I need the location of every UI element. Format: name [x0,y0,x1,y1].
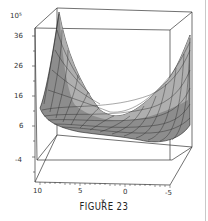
z-axis: 36 26 16 6 -4 10⁵ [10,12,35,172]
surface-plot: 36 26 16 6 -4 10⁵ 10 5 0 -5 x [0,0,208,221]
x-tick-0: 0 [123,188,127,196]
z-multiplier-label: 10⁵ [10,12,22,20]
z-tick-6: 6 [19,122,24,130]
x-tick-10: 10 [33,187,42,195]
z-tick-neg4: -4 [15,156,23,164]
x-tick-5: 5 [78,187,82,195]
z-tick-26: 26 [14,62,23,70]
figure-caption: FIGURE 23 [15,201,192,212]
surface-mesh [40,12,190,142]
page-margin-line [205,0,206,221]
x-tick-neg5: -5 [165,189,172,197]
z-tick-16: 16 [14,92,23,100]
z-tick-36: 36 [14,32,23,40]
